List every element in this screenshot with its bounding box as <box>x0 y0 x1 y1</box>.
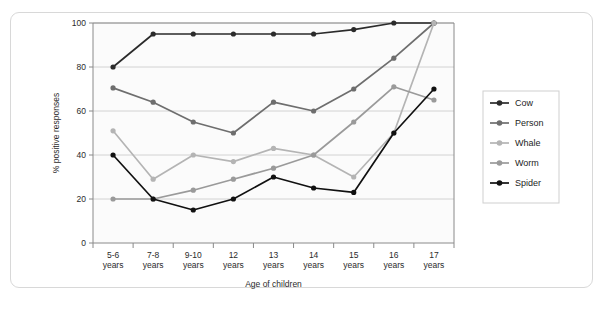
data-point-person <box>271 100 276 105</box>
xtick-label: years <box>263 260 284 270</box>
legend-label-spider: Spider <box>515 178 541 188</box>
data-point-cow <box>110 64 115 69</box>
data-point-whale <box>231 159 236 164</box>
data-point-spider <box>110 152 115 157</box>
ytick-label: 80 <box>77 62 87 72</box>
xtick-label: 12 <box>229 250 239 260</box>
xtick-label: years <box>424 260 445 270</box>
data-point-worm <box>191 188 196 193</box>
ytick-label: 20 <box>77 194 87 204</box>
ytick-label: 40 <box>77 150 87 160</box>
legend-marker-cow <box>497 100 503 106</box>
data-point-whale <box>271 146 276 151</box>
data-point-spider <box>151 196 156 201</box>
legend-label-worm: Worm <box>515 158 539 168</box>
xtick-label: years <box>103 260 124 270</box>
xtick-label: years <box>303 260 324 270</box>
data-point-whale <box>431 20 436 25</box>
xtick-label: 14 <box>309 250 319 260</box>
xtick-label: 7-8 <box>147 250 160 260</box>
xtick-label: 9-10 <box>185 250 202 260</box>
xtick-label: 5-6 <box>107 250 120 260</box>
data-point-worm <box>431 97 436 102</box>
legend-label-whale: Whale <box>515 138 541 148</box>
legend-marker-worm <box>497 160 503 166</box>
data-point-person <box>391 56 396 61</box>
data-point-worm <box>391 84 396 89</box>
xtick-label: years <box>223 260 244 270</box>
data-point-cow <box>191 31 196 36</box>
xtick-label: 17 <box>429 250 439 260</box>
data-point-person <box>311 108 316 113</box>
x-axis-title: Age of children <box>245 279 302 289</box>
xtick-label: years <box>183 260 204 270</box>
data-point-spider <box>431 86 436 91</box>
data-point-person <box>110 85 115 90</box>
data-point-person <box>351 86 356 91</box>
xtick-label: years <box>143 260 164 270</box>
data-point-whale <box>351 174 356 179</box>
chart-container: 0204060801005-6years7-8years9-10years12y… <box>11 13 594 289</box>
data-point-spider <box>391 130 396 135</box>
data-point-cow <box>151 31 156 36</box>
data-point-spider <box>231 196 236 201</box>
xtick-label: years <box>383 260 404 270</box>
data-point-whale <box>110 128 115 133</box>
ytick-label: 100 <box>72 18 86 28</box>
data-point-worm <box>311 152 316 157</box>
data-point-person <box>231 130 236 135</box>
data-point-spider <box>271 174 276 179</box>
chart-card: 0204060801005-6years7-8years9-10years12y… <box>10 12 593 288</box>
data-point-spider <box>311 185 316 190</box>
legend-label-cow: Cow <box>515 98 534 108</box>
data-point-person <box>191 119 196 124</box>
data-point-cow <box>351 27 356 32</box>
xtick-label: 15 <box>349 250 359 260</box>
data-point-cow <box>231 31 236 36</box>
legend-marker-spider <box>497 180 503 186</box>
data-point-spider <box>191 207 196 212</box>
legend-marker-person <box>497 120 503 126</box>
data-point-spider <box>351 190 356 195</box>
data-point-cow <box>391 20 396 25</box>
ytick-label: 0 <box>81 238 86 248</box>
data-point-worm <box>231 177 236 182</box>
data-point-whale <box>151 177 156 182</box>
data-point-cow <box>311 31 316 36</box>
xtick-label: 16 <box>389 250 399 260</box>
data-point-person <box>151 100 156 105</box>
xtick-label: years <box>343 260 364 270</box>
data-point-worm <box>110 196 115 201</box>
legend-marker-whale <box>497 140 503 146</box>
y-axis-title: % positive responses <box>51 93 61 173</box>
legend-label-person: Person <box>515 118 544 128</box>
line-chart: 0204060801005-6years7-8years9-10years12y… <box>11 13 594 289</box>
ytick-label: 60 <box>77 106 87 116</box>
xtick-label: 13 <box>269 250 279 260</box>
plot-background <box>93 23 454 243</box>
data-point-cow <box>271 31 276 36</box>
data-point-worm <box>271 166 276 171</box>
data-point-worm <box>351 119 356 124</box>
data-point-whale <box>191 152 196 157</box>
